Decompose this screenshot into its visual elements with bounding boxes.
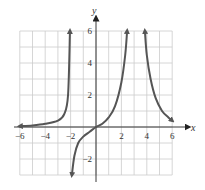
x-tick-label: −4: [40, 131, 50, 141]
y-tick-label: −2: [82, 154, 92, 164]
x-tick-label: −2: [66, 131, 76, 141]
curve-middle-branch: [72, 31, 127, 175]
x-tick-label: 2: [119, 131, 124, 141]
x-axis-label: x: [190, 122, 196, 133]
x-tick-label: 4: [145, 131, 150, 141]
y-axis-label: y: [91, 5, 97, 16]
curve-right-branch: [145, 31, 172, 121]
y-tick-label: 6: [88, 26, 93, 36]
function-graph: xy −6−4−2246−2246: [0, 0, 205, 190]
y-tick-label: 2: [88, 90, 93, 100]
x-tick-label: −6: [15, 131, 25, 141]
axes: xy: [14, 5, 196, 182]
y-tick-label: 4: [88, 58, 93, 68]
x-tick-label: 6: [170, 131, 175, 141]
